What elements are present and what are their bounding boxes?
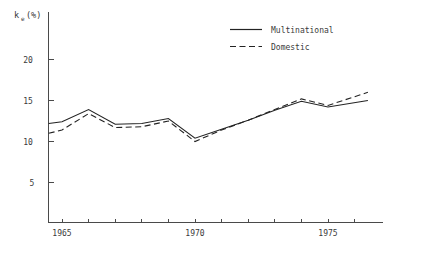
- x-tick-label: 1970: [185, 229, 204, 238]
- series-line-multinational: [49, 101, 368, 139]
- legend-label-domestic: Domestic: [271, 43, 310, 52]
- x-tick-label: 1975: [318, 229, 337, 238]
- y-tick-label: 10: [23, 138, 33, 147]
- x-axis-ticks: [62, 219, 355, 223]
- y-axis-label-subscript: e: [21, 15, 25, 22]
- x-axis-labels: 1965 1970 1975: [52, 229, 337, 238]
- x-tick-label: 1965: [52, 229, 71, 238]
- line-chart: k e (%) 20 15 10 5 1965 1970 1975: [0, 0, 423, 257]
- y-tick-label: 5: [30, 179, 35, 188]
- chart-container: k e (%) 20 15 10 5 1965 1970 1975: [0, 0, 423, 257]
- y-axis-label: k e (%): [14, 10, 41, 22]
- y-axis-label-main: k: [14, 10, 19, 20]
- legend-label-multinational: Multinational: [271, 26, 334, 35]
- y-axis-label-unit: (%): [26, 10, 41, 20]
- chart-legend: Multinational Domestic: [230, 26, 334, 52]
- y-tick-label: 20: [23, 56, 33, 65]
- y-tick-label: 15: [23, 97, 33, 106]
